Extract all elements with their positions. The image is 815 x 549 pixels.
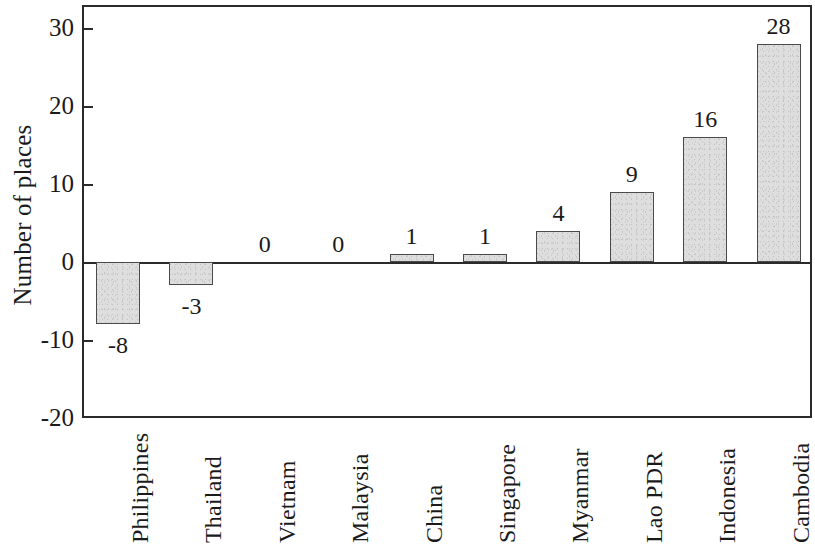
category-label: Malaysia bbox=[347, 453, 373, 543]
bar-value-label: 9 bbox=[592, 162, 672, 186]
category-label: Singapore bbox=[494, 444, 520, 543]
category-label: Myanmar bbox=[567, 448, 593, 543]
bars-layer: -8Philippines-3Thailand0Vietnam0Malaysia… bbox=[0, 0, 815, 549]
category-label: Thailand bbox=[200, 456, 226, 543]
bar bbox=[390, 254, 434, 262]
bar bbox=[463, 254, 507, 262]
bar bbox=[683, 137, 727, 262]
bar bbox=[610, 192, 654, 262]
bar bbox=[169, 262, 213, 285]
bar-value-label: 4 bbox=[518, 201, 598, 225]
bar-value-label: 1 bbox=[445, 224, 525, 248]
bar-value-label: 28 bbox=[739, 14, 815, 38]
bar-value-label: 0 bbox=[225, 232, 305, 256]
category-label: China bbox=[421, 485, 447, 543]
bar bbox=[96, 262, 140, 324]
bar-value-label: 1 bbox=[372, 224, 452, 248]
bar-value-label: 0 bbox=[298, 232, 378, 256]
bar bbox=[757, 44, 801, 262]
category-label: Vietnam bbox=[274, 460, 300, 543]
bar-value-label: 16 bbox=[665, 107, 745, 131]
bar-chart: Number of places 3020100-10-20 -8Philipp… bbox=[0, 0, 815, 549]
bar bbox=[536, 231, 580, 262]
category-label: Lao PDR bbox=[641, 452, 667, 543]
category-label: Indonesia bbox=[714, 448, 740, 543]
category-label: Philippines bbox=[127, 433, 153, 543]
bar-value-label: -8 bbox=[78, 333, 158, 357]
category-label: Cambodia bbox=[788, 443, 814, 543]
bar-value-label: -3 bbox=[151, 294, 231, 318]
